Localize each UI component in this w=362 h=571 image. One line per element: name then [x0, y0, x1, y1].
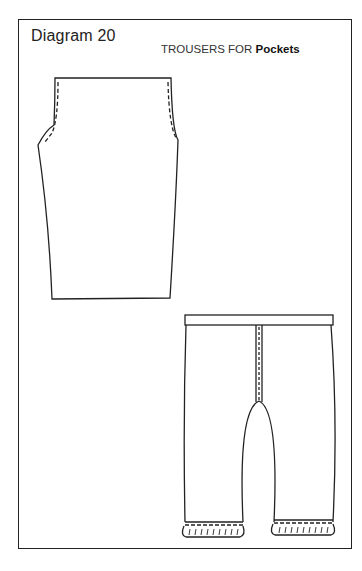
trousers-drawing [0, 0, 362, 571]
assembled-trousers [182, 315, 335, 537]
trouser-pattern-piece [38, 78, 178, 299]
